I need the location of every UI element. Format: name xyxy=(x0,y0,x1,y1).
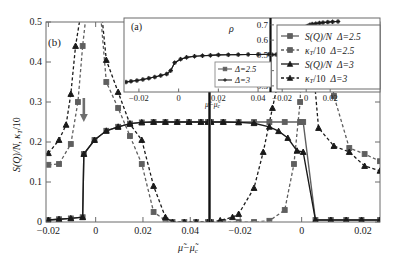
data-marker-square xyxy=(223,67,227,71)
legend-delta: Δ=2.5 xyxy=(329,46,354,56)
inset-legend-label: Δ=3 xyxy=(234,75,250,85)
inset-x-tick-label-right: 0 xyxy=(304,93,308,103)
data-series-solid xyxy=(211,122,380,220)
data-marker-square xyxy=(292,162,297,167)
legend-quantity: S(Q)/N xyxy=(305,32,333,43)
main-y-tick-label: 0.4 xyxy=(30,56,43,67)
data-marker-triangle xyxy=(56,137,62,142)
data-marker-square xyxy=(282,208,287,213)
arrow-left-panel-head xyxy=(80,114,88,122)
data-markers xyxy=(208,119,383,222)
data-marker-square xyxy=(282,120,287,125)
panel-label-b: (b) xyxy=(48,37,61,48)
data-marker-square xyxy=(57,162,62,167)
data-marker-triangle xyxy=(151,183,157,188)
main-x-axis-label: μ̃−μ̃c xyxy=(178,243,198,255)
panel-label-a: (a) xyxy=(131,22,142,32)
main-x-tick-label-left: −0.02 xyxy=(37,225,60,236)
data-marker-triangle xyxy=(73,43,79,48)
y-label-kappa: , κ xyxy=(11,134,22,144)
inset-x-tick-label-left: 0 xyxy=(177,93,181,103)
main-x-tick-label-right: 0.02 xyxy=(354,225,372,236)
main-y-tick-label: 0.5 xyxy=(30,16,43,27)
y-label-sub: T xyxy=(16,130,24,134)
data-marker-square xyxy=(139,162,144,167)
main-y-axis-label: S(Q)/N, κT/10 xyxy=(11,117,24,172)
legend-delta: Δ=2.5 xyxy=(336,32,361,42)
data-marker-square xyxy=(378,159,383,164)
data-marker-triangle xyxy=(316,125,322,130)
data-marker-triangle xyxy=(63,122,69,127)
main-y-tick-label: 0.3 xyxy=(30,96,43,107)
inset-x-axis-label: μ̃−μ̃c xyxy=(205,101,220,110)
data-marker-square xyxy=(288,48,293,53)
main-legend-label: S(Q)/NΔ=3 xyxy=(305,60,354,71)
main-x-tick-label-left: 0 xyxy=(93,225,98,236)
data-marker-square xyxy=(104,80,109,85)
data-series-solid xyxy=(211,122,380,220)
data-marker-triangle xyxy=(230,214,236,219)
main-x-tick-label-left: 0.04 xyxy=(182,225,200,236)
main-y-tick-label: 0.1 xyxy=(30,176,43,187)
data-marker-triangle xyxy=(270,105,276,110)
inset-x-tick-label-left: −0.02 xyxy=(129,93,149,103)
inset-x-label-sub: c xyxy=(218,103,220,109)
main-x-tick-label-right: 0 xyxy=(299,225,304,236)
legend-quantity: S(Q)/N xyxy=(305,60,333,71)
inset-x-tick-label-left: 0.04 xyxy=(251,93,267,103)
inset-legend-label: Δ=2.5 xyxy=(234,64,256,74)
main-x-tick-label-right: −0.02 xyxy=(229,225,252,236)
y-label-div10: /10 xyxy=(11,117,22,130)
data-marker-triangle xyxy=(115,89,121,94)
data-marker-square xyxy=(68,142,73,147)
legend-delta: Δ=3 xyxy=(336,60,354,70)
data-marker-triangle xyxy=(236,211,242,216)
x-label-mu: μ̃−μ̃ xyxy=(178,242,195,253)
inset-x-label-mu: μ̃−μ̃ xyxy=(205,100,218,109)
legend-quantity-tail: /10 xyxy=(313,46,325,56)
legend-delta: Δ=3 xyxy=(329,74,347,84)
data-marker-square xyxy=(301,120,306,125)
data-marker-triangle xyxy=(68,91,74,96)
data-marker-square xyxy=(80,44,85,49)
main-x-tick-label-left: 0.02 xyxy=(134,225,152,236)
data-marker-square xyxy=(128,134,133,139)
data-marker-square xyxy=(46,162,51,167)
main-legend-label: κT/10Δ=2.5 xyxy=(305,46,355,57)
inset-y-tick-label: 0.6 xyxy=(257,35,269,45)
inset-y-tick-label: 0.7 xyxy=(257,20,269,30)
data-marker-square xyxy=(288,34,293,39)
data-marker-triangle xyxy=(251,185,257,190)
data-marker-triangle xyxy=(163,214,169,219)
legend-quantity-tail: /10 xyxy=(313,74,325,84)
data-marker-square xyxy=(116,106,121,111)
data-markers xyxy=(209,120,383,223)
inset-y-axis-label-rho: ρ xyxy=(229,24,234,34)
data-marker-square xyxy=(298,100,303,105)
inset-x-tick-label-right: 0.02 xyxy=(323,93,338,103)
figure-root: 00.10.20.30.40.5−0.0200.020.04−0.0200.02… xyxy=(0,0,393,262)
x-label-sub: c xyxy=(195,247,198,255)
data-marker-square xyxy=(76,100,81,105)
data-marker-triangle xyxy=(260,149,266,154)
inset-x-tick-label-right: −0.02 xyxy=(272,93,292,103)
data-marker-square xyxy=(151,210,156,215)
y-label-sq: S(Q)/N xyxy=(11,144,22,172)
data-marker-square xyxy=(362,152,367,157)
main-y-tick-label: 0.2 xyxy=(30,136,43,147)
